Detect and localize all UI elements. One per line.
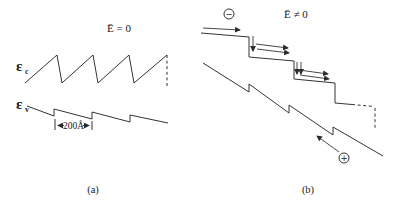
hole-icon: + [339, 153, 349, 163]
electron-sign: − [225, 9, 232, 19]
hole-sign: + [340, 153, 347, 163]
conduction-band-sawtooth [25, 55, 167, 83]
figure-canvas: Ē = 0 ε c ε v 200Å (a) Ē ≠ 0 [0, 0, 394, 206]
transport-arrow-tread3b [300, 75, 329, 79]
valence-band-sawtooth [27, 106, 168, 123]
staircase-dashed-tread [352, 105, 374, 107]
transport-arrow-tread3a [299, 70, 328, 74]
period-label: 200Å [63, 120, 84, 131]
electron-icon: − [224, 9, 234, 19]
band-diagram-figure: Ē = 0 ε c ε v 200Å (a) Ē ≠ 0 [0, 0, 394, 206]
panel-a-caption: (a) [87, 184, 99, 196]
valence-band-symbol: ε [16, 96, 23, 112]
panel-b-caption: (b) [302, 184, 315, 196]
panel-b-title: Ē ≠ 0 [284, 8, 308, 20]
panel-b: Ē ≠ 0 − [201, 8, 383, 196]
panel-a: Ē = 0 ε c ε v 200Å (a) [16, 22, 168, 196]
transport-arrow-tread2a [256, 44, 288, 48]
conduction-band-staircase [201, 33, 352, 105]
period-measurement: 200Å [55, 119, 92, 131]
transport-arrow-tread2b [257, 49, 289, 53]
conduction-band-symbol: ε [16, 58, 23, 74]
conduction-band-subscript: c [25, 67, 29, 76]
valence-band-tilted-sawtooth [203, 63, 383, 156]
hole-motion-arrow [317, 136, 339, 152]
electron-motion-arrow [203, 28, 240, 30]
panel-a-title: Ē = 0 [107, 22, 131, 34]
